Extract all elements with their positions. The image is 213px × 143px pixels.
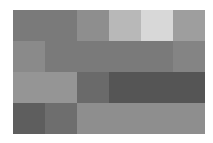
heatmap-cell (109, 72, 141, 103)
heatmap-cell (109, 103, 141, 134)
heatmap-cell (45, 72, 77, 103)
heatmap-cell (109, 10, 141, 41)
heatmap-cell (45, 10, 77, 41)
heatmap-cell (77, 103, 109, 134)
heatmap-cell (13, 41, 45, 72)
heatmap-cell (173, 10, 205, 41)
heatmap-cell (109, 41, 141, 72)
heatmap-cell (173, 41, 205, 72)
heatmap-cell (13, 72, 45, 103)
heatmap-grid (13, 10, 205, 134)
heatmap-cell (77, 41, 109, 72)
heatmap-cell (141, 10, 173, 41)
heatmap-cell (13, 10, 45, 41)
heatmap-cell (77, 10, 109, 41)
heatmap-cell (141, 103, 173, 134)
heatmap-cell (141, 72, 173, 103)
heatmap-cell (45, 41, 77, 72)
heatmap-cell (141, 41, 173, 72)
heatmap-cell (77, 72, 109, 103)
heatmap-cell (13, 103, 45, 134)
heatmap-cell (173, 72, 205, 103)
heatmap-cell (45, 103, 77, 134)
heatmap-cell (173, 103, 205, 134)
